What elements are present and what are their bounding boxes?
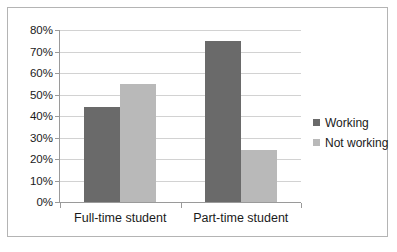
bar-not-working-full-time-student[interactable] — [120, 84, 156, 202]
value-axis-label: 40% — [9, 111, 53, 122]
legend-item-working[interactable]: Working — [313, 114, 388, 131]
value-axis-label: 20% — [9, 154, 53, 165]
value-axis-label: 80% — [9, 25, 53, 36]
category-label: Part-time student — [181, 211, 302, 225]
bar-working-full-time-student[interactable] — [84, 107, 120, 202]
category-axis-tick — [301, 203, 302, 208]
legend-item-not-working[interactable]: Not working — [313, 134, 388, 151]
value-axis-label: 0% — [9, 197, 53, 208]
category-axis-tick — [181, 203, 182, 208]
legend-label: Not working — [325, 136, 388, 150]
value-axis-label: 50% — [9, 89, 53, 100]
legend-label: Working — [325, 116, 369, 130]
category-axis-tick — [60, 203, 61, 208]
chart-frame: 0%10%20%30%40%50%60%70%80% Full-time stu… — [7, 7, 388, 237]
category-label: Full-time student — [60, 211, 181, 225]
value-axis-label: 30% — [9, 132, 53, 143]
value-axis-label: 60% — [9, 68, 53, 79]
legend-swatch-icon — [313, 119, 320, 126]
chart-legend: WorkingNot working — [313, 114, 388, 154]
value-axis-label: 10% — [9, 175, 53, 186]
bar-not-working-part-time-student[interactable] — [241, 150, 277, 202]
value-axis-label: 70% — [9, 46, 53, 57]
legend-swatch-icon — [313, 139, 320, 146]
plot-area — [60, 30, 301, 202]
value-axis-labels: 0%10%20%30%40%50%60%70%80% — [8, 30, 53, 203]
bar-working-part-time-student[interactable] — [205, 41, 241, 202]
